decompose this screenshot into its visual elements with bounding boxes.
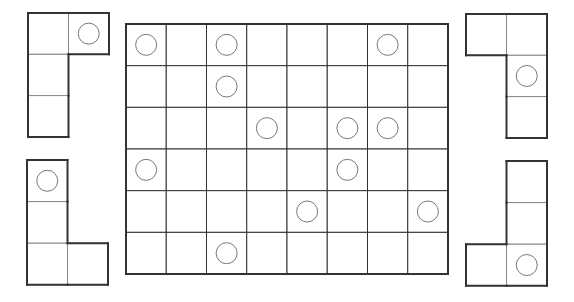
board-cell[interactable] — [207, 24, 247, 66]
board-cell[interactable] — [408, 66, 448, 108]
board-cell[interactable] — [247, 191, 287, 233]
board-cell[interactable] — [368, 66, 408, 108]
board-cell[interactable] — [166, 149, 206, 191]
piece-cell — [27, 160, 68, 202]
board-cell[interactable] — [166, 107, 206, 149]
board-cell[interactable] — [126, 149, 166, 191]
piece-cell — [27, 243, 68, 285]
main-grid-board[interactable] — [126, 24, 448, 274]
board-cell[interactable] — [327, 107, 367, 149]
board-cell[interactable] — [247, 149, 287, 191]
board-cell[interactable] — [247, 232, 287, 274]
board-cell[interactable] — [207, 107, 247, 149]
piece-cell — [507, 14, 548, 55]
piece-cell — [27, 202, 68, 244]
piece-cell — [507, 97, 548, 138]
board-cell[interactable] — [287, 149, 327, 191]
board-cell[interactable] — [247, 66, 287, 108]
piece-bottom-left[interactable] — [27, 160, 108, 285]
piece-cell — [507, 203, 548, 245]
board-cell[interactable] — [368, 191, 408, 233]
piece-cell — [28, 13, 69, 54]
board-cell[interactable] — [126, 107, 166, 149]
board-cell[interactable] — [207, 232, 247, 274]
piece-top-left[interactable] — [28, 13, 109, 137]
board-cell[interactable] — [166, 191, 206, 233]
piece-cell — [466, 14, 507, 55]
board-cell[interactable] — [327, 24, 367, 66]
board-cell[interactable] — [368, 24, 408, 66]
board-cell[interactable] — [368, 232, 408, 274]
board-cell[interactable] — [327, 232, 367, 274]
board-cell[interactable] — [408, 107, 448, 149]
board-cell[interactable] — [247, 107, 287, 149]
puzzle-stage — [0, 0, 574, 302]
board-cell[interactable] — [126, 24, 166, 66]
piece-cell — [507, 161, 548, 203]
board-cell[interactable] — [287, 66, 327, 108]
board-cell[interactable] — [287, 232, 327, 274]
piece-cell — [507, 244, 548, 286]
board-cell[interactable] — [166, 232, 206, 274]
board-cell[interactable] — [207, 191, 247, 233]
board-cell[interactable] — [327, 149, 367, 191]
board-cell[interactable] — [327, 191, 367, 233]
piece-top-right[interactable] — [466, 14, 547, 138]
board-cell[interactable] — [287, 24, 327, 66]
piece-cell — [466, 244, 507, 286]
board-cell[interactable] — [126, 191, 166, 233]
board-cell[interactable] — [408, 232, 448, 274]
board-cell[interactable] — [166, 66, 206, 108]
piece-cell — [28, 54, 69, 95]
board-cell[interactable] — [368, 107, 408, 149]
board-cell[interactable] — [368, 149, 408, 191]
piece-cell — [507, 55, 548, 96]
board-cell[interactable] — [408, 24, 448, 66]
board-cell[interactable] — [408, 191, 448, 233]
board-cell[interactable] — [207, 149, 247, 191]
board-cell[interactable] — [247, 24, 287, 66]
board-cell[interactable] — [126, 66, 166, 108]
piece-cell — [69, 13, 110, 54]
piece-cell — [68, 243, 109, 285]
board-cell[interactable] — [126, 232, 166, 274]
board-cell[interactable] — [327, 66, 367, 108]
board-cell[interactable] — [287, 107, 327, 149]
board-cell[interactable] — [207, 66, 247, 108]
board-cell[interactable] — [287, 191, 327, 233]
piece-bottom-right[interactable] — [466, 161, 547, 286]
piece-cell — [28, 96, 69, 137]
board-cell[interactable] — [408, 149, 448, 191]
board-cell[interactable] — [166, 24, 206, 66]
